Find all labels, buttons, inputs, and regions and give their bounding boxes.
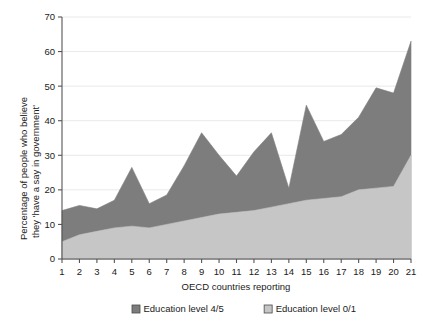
legend-label: Education level 0/1 — [276, 303, 356, 314]
x-tick-label-6: 6 — [147, 266, 152, 277]
x-tick-label-1: 1 — [59, 266, 64, 277]
y-axis-title: Percentage of people who believe they 'h… — [18, 97, 41, 240]
y-tick-label-0: 0 — [50, 253, 55, 264]
x-tick-label-7: 7 — [164, 266, 169, 277]
x-tick-label-20: 20 — [388, 266, 399, 277]
legend-label: Education level 4/5 — [144, 303, 224, 314]
x-tick-label-11: 11 — [232, 266, 242, 277]
x-tick-label-2: 2 — [77, 266, 82, 277]
y-tick-label-20: 20 — [44, 184, 55, 195]
legend-swatch — [264, 305, 272, 313]
y-tick-label-10: 10 — [44, 219, 55, 230]
x-tick-label-17: 17 — [336, 266, 347, 277]
y-tick-label-50: 50 — [44, 81, 55, 92]
y-tick-label-30: 30 — [44, 150, 55, 161]
legend-item-1: Education level 4/5 — [132, 303, 224, 314]
x-tick-label-12: 12 — [249, 266, 260, 277]
y-tick-label-40: 40 — [44, 115, 55, 126]
x-tick-label-14: 14 — [284, 266, 295, 277]
legend-item-2: Education level 0/1 — [264, 303, 356, 314]
y-axis-title-line1: Percentage of people who believe — [18, 97, 29, 240]
x-tick-label-15: 15 — [301, 266, 312, 277]
x-tick-label-19: 19 — [371, 266, 382, 277]
x-tick-label-18: 18 — [353, 266, 364, 277]
x-tick-label-9: 9 — [199, 266, 204, 277]
x-tick-label-4: 4 — [112, 266, 117, 277]
x-tick-label-21: 21 — [406, 266, 417, 277]
y-axis-title-line2: they 'have a say in government' — [30, 105, 41, 238]
x-tick-label-8: 8 — [182, 266, 187, 277]
x-tick-label-5: 5 — [129, 266, 134, 277]
x-tick-label-10: 10 — [214, 266, 225, 277]
chart-figure: 010203040506070 123456789101112131415161… — [0, 0, 432, 329]
x-tick-label-3: 3 — [94, 266, 99, 277]
x-tick-label-13: 13 — [266, 266, 277, 277]
y-tick-label-60: 60 — [44, 46, 55, 57]
stacked-area-chart: 010203040506070 123456789101112131415161… — [0, 0, 432, 329]
legend-swatch — [132, 305, 140, 313]
x-axis-title: OECD countries reporting — [182, 281, 291, 292]
y-tick-label-70: 70 — [44, 11, 55, 22]
x-tick-label-16: 16 — [318, 266, 329, 277]
